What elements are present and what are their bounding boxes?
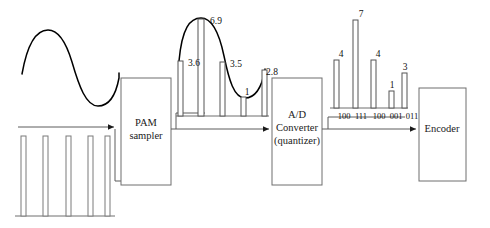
pcm-block-diagram: PAM sampler 3.6 6.9 3.5 1 2.8 (0, 0, 490, 228)
pam-sample-bar (241, 97, 246, 116)
ad-converter-label-line1: A/D (288, 109, 307, 120)
encoder-block[interactable]: Encoder (419, 88, 466, 181)
encoder-rect[interactable] (419, 88, 466, 181)
quantized-value-label: 4 (339, 49, 344, 59)
diagram-canvas: PAM sampler 3.6 6.9 3.5 1 2.8 (0, 0, 490, 228)
ad-converter-label-line2: Converter (276, 122, 318, 133)
binary-code-label: 111 (355, 111, 367, 121)
quantized-output-waveform: 4 7 4 1 3 100 111 100 001 011 (330, 9, 418, 121)
clock-pulse (66, 136, 71, 216)
pam-value-label: 3.5 (230, 59, 242, 69)
pam-value-label: 1 (245, 87, 250, 97)
quantized-value-label: 1 (390, 80, 395, 90)
quantized-bar (371, 60, 376, 108)
analog-input-waveform (22, 30, 119, 106)
binary-code-label: 001 (390, 111, 403, 121)
quantized-value-label: 3 (403, 62, 408, 72)
quantized-value-label: 4 (376, 49, 381, 59)
ad-converter-block[interactable]: A/D Converter (quantizer) (272, 78, 322, 185)
ad-converter-label-line3: (quantizer) (274, 135, 321, 147)
quantized-bar (389, 91, 394, 108)
pam-value-label: 6.9 (210, 16, 222, 26)
pam-output-waveform: 3.6 6.9 3.5 1 2.8 (176, 16, 278, 116)
pam-sample-bar (178, 61, 183, 116)
pam-value-label: 2.8 (266, 67, 278, 77)
quantized-value-label: 7 (359, 9, 364, 19)
encoder-label: Encoder (425, 123, 460, 134)
clock-pulse (88, 136, 93, 216)
quantized-bar (353, 20, 358, 108)
sine-wave-curve (22, 30, 119, 106)
pam-sampler-block[interactable]: PAM sampler (121, 78, 171, 185)
pam-sample-bar (220, 62, 225, 116)
binary-code-label: 011 (406, 111, 418, 121)
quantized-bar (334, 60, 339, 108)
clock-pulse (105, 136, 110, 216)
quantized-bar (402, 73, 407, 108)
binary-code-label: 100 (338, 111, 351, 121)
pam-sampler-label-line2: sampler (129, 130, 163, 141)
pam-sampler-label-line1: PAM (135, 117, 157, 128)
sampling-clock-pulse-train (15, 129, 124, 216)
binary-code-label: 100 (373, 111, 386, 121)
clock-pulse (21, 136, 26, 216)
pam-value-label: 3.6 (188, 58, 200, 68)
clock-pulse (43, 136, 48, 216)
